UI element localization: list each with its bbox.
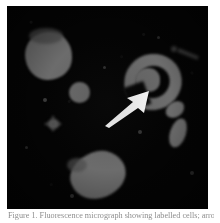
figure-caption-text: Figure 1. Fluorescence micrograph showin…: [8, 212, 214, 220]
speck-a: [43, 98, 47, 102]
figure-caption: Figure 1. Fluorescence micrograph showin…: [8, 212, 214, 223]
figure-container: Figure 1. Fluorescence micrograph showin…: [0, 0, 220, 223]
speck-f: [25, 146, 28, 149]
cell-mid-left: [69, 82, 90, 103]
speck-c: [103, 66, 106, 69]
speck-top-right: [171, 46, 177, 52]
cell-right-lower: [166, 116, 190, 149]
cell-bottom: [63, 143, 132, 207]
streak-top-right: [177, 48, 199, 60]
cell-top-left-halo: [29, 28, 63, 44]
speck-star-ray-2: [52, 116, 54, 131]
speck-b: [138, 130, 142, 134]
speck-e: [70, 194, 74, 198]
cell-bottom-halo: [67, 158, 87, 172]
speck-g: [157, 36, 160, 39]
annotation-arrow-icon: [103, 90, 155, 128]
fluorescence-micrograph-panel: [7, 6, 208, 209]
speck-d: [190, 171, 194, 175]
